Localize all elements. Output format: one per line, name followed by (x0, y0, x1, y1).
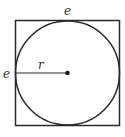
radius-label: r (38, 58, 45, 72)
center-point (65, 71, 70, 76)
inscribed-circle-diagram: e e r (0, 0, 125, 137)
left-edge-label: e (3, 67, 10, 81)
top-edge-label: e (64, 4, 71, 18)
